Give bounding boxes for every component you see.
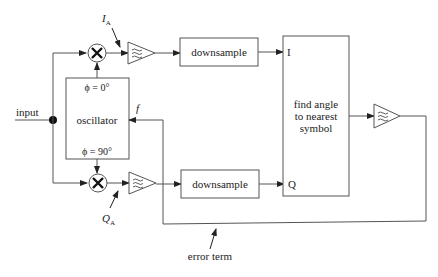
phase-90-label: ϕ = 90° bbox=[82, 146, 112, 157]
mixer-i bbox=[88, 44, 106, 62]
feedback-path bbox=[129, 116, 426, 224]
svg-text:error term: error term bbox=[188, 250, 233, 262]
loop-filter bbox=[374, 104, 400, 128]
error-term-annotation: error term bbox=[188, 229, 233, 262]
mixer-q bbox=[89, 174, 107, 192]
i-a-annotation: IA bbox=[101, 12, 120, 47]
downsample-i-label: downsample bbox=[191, 46, 247, 58]
lowpass-filter-i bbox=[128, 42, 155, 64]
oscillator-label: oscillator bbox=[77, 114, 118, 126]
freq-input-label: f bbox=[136, 102, 141, 114]
input-label: input bbox=[16, 106, 39, 118]
input-q-label: Q bbox=[288, 178, 296, 190]
downsample-q-label: downsample bbox=[192, 178, 248, 190]
find-angle-line3: symbol bbox=[300, 122, 332, 134]
input-i-label: I bbox=[287, 46, 291, 58]
find-angle-line2: to nearest bbox=[295, 110, 337, 122]
svg-text:IA: IA bbox=[101, 12, 111, 27]
find-angle-line1: find angle bbox=[294, 98, 338, 110]
svg-text:QA: QA bbox=[102, 212, 115, 227]
lowpass-filter-q bbox=[129, 172, 156, 194]
costas-loop-diagram: input ϕ = 0° oscillator ϕ = 90° downsamp… bbox=[0, 0, 438, 277]
phase-0-label: ϕ = 0° bbox=[85, 82, 110, 93]
q-a-annotation: QA bbox=[102, 191, 118, 227]
